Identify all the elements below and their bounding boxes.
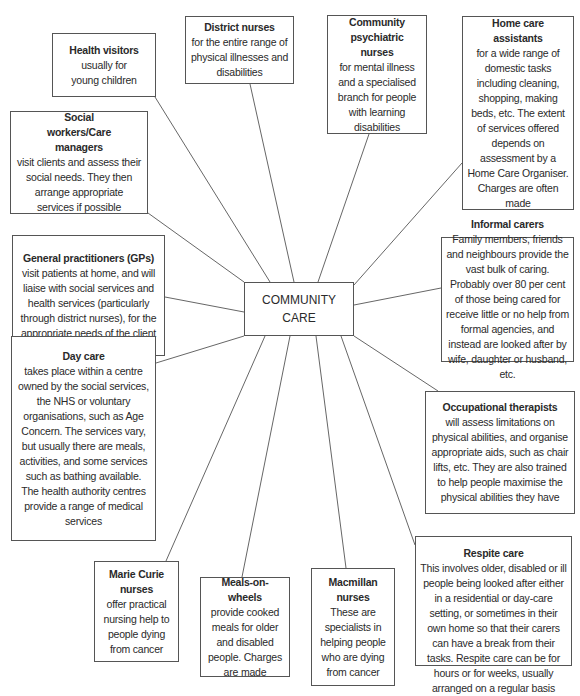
node-text: visit clients and assess their social ne… <box>15 155 143 215</box>
node-community-psychiatric-nurses: Community psychiatric nurses for mental … <box>327 15 427 134</box>
node-informal-carers: Informal carers Family members, friends … <box>441 237 574 362</box>
node-title: Meals-on-wheels <box>205 575 285 605</box>
node-health-visitors: Health visitors usually for young childr… <box>52 33 156 97</box>
node-title: Day care <box>16 349 151 364</box>
node-meals-on-wheels: Meals-on-wheels provide cooked meals for… <box>200 577 290 677</box>
node-district-nurses: District nurses for the entire range of … <box>185 16 294 84</box>
node-text: visit patients at home, and will liaise … <box>17 266 160 341</box>
node-macmillan-nurses: Macmillan nurses These are specialists i… <box>311 568 395 686</box>
node-text: for mental illness and a specialised bra… <box>332 60 422 135</box>
node-title: Occupational therapists <box>430 400 570 415</box>
node-respite-care: Respite care This involves older, disabl… <box>415 536 572 666</box>
node-title: Informal carers <box>446 217 569 232</box>
node-text: will assess limitations on physical abil… <box>430 415 570 505</box>
node-text: offer practical nursing help to people d… <box>99 597 174 657</box>
node-title: District nurses <box>190 20 289 35</box>
node-title: General practitioners (GPs) <box>17 251 160 266</box>
node-text: usually for young children <box>57 58 151 88</box>
node-title: Community psychiatric nurses <box>332 15 422 60</box>
node-title: Home care assistants <box>467 16 569 46</box>
node-marie-curie-nurses: Marie Curie nurses offer practical nursi… <box>94 561 179 662</box>
community-care-center-node: COMMUNITY CARE <box>244 282 354 336</box>
node-text: These are specialists in helping people … <box>316 605 390 680</box>
node-home-care-assistants: Home care assistants for a wide range of… <box>462 16 574 210</box>
node-day-care: Day care takes place within a centre own… <box>11 336 156 541</box>
node-title: Health visitors <box>57 43 151 58</box>
center-label-line1: COMMUNITY <box>245 291 353 309</box>
node-title: Macmillan nurses <box>316 575 390 605</box>
node-text: for the entire range of physical illness… <box>190 35 289 80</box>
node-title: Marie Curie nurses <box>99 567 174 597</box>
node-social-workers: Social workers/Care managers visit clien… <box>10 111 148 214</box>
node-title: Social workers/Care managers <box>15 110 143 155</box>
node-text: takes place within a centre owned by the… <box>16 364 151 529</box>
node-text: This involves older, disabled or ill peo… <box>420 561 567 696</box>
node-occupational-therapists: Occupational therapists will assess limi… <box>425 391 575 514</box>
center-label-line2: CARE <box>245 309 353 327</box>
node-title: Respite care <box>420 546 567 561</box>
node-text: provide cooked meals for older and disab… <box>205 605 285 680</box>
node-text: Family members, friends and neighbours p… <box>446 232 569 382</box>
node-text: for a wide range of domestic tasks inclu… <box>467 46 569 211</box>
